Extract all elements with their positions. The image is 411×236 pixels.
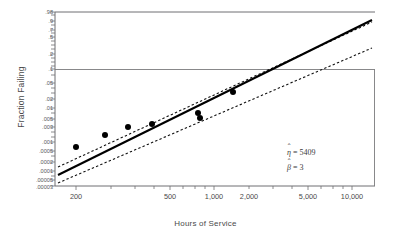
data-point [73,144,79,150]
confidence-bounds [58,22,372,183]
relation: = [293,148,298,157]
data-point [197,115,203,121]
x-tick-label: 500 [164,192,176,201]
relation: = [293,163,298,172]
hat-accent: ˆ [287,143,291,152]
x-tick-label: 5,000 [299,192,317,201]
annotation-eta-estimate: ηˆ = 5409 [287,148,315,157]
x-axis-title: Hours of Service [0,219,411,228]
hat-accent: ˆ [287,158,291,167]
chart-figure: .98 .9 .7 .5 .2 .1 .05 .02 .01 .005 .003… [0,0,411,236]
x-tick-label: 1,000 [205,192,223,201]
x-axis-ticks [76,186,352,190]
x-tick-label: 200 [70,192,82,201]
data-point [230,89,236,95]
data-point [125,124,131,130]
y-axis-ticks [50,12,55,186]
data-point [149,121,155,127]
beta-symbol: βˆ [287,163,291,172]
weibull-fit-line [58,20,372,175]
x-tick-label: 10,000 [341,192,363,201]
eta-symbol: ηˆ [287,148,291,157]
beta-value: 3 [300,163,304,172]
plot-frame [55,12,375,186]
annotation-beta-estimate: βˆ = 3 [287,163,304,172]
y-axis-title: Fraction Failing [16,42,26,152]
eta-value: 5409 [299,148,315,157]
x-tick-label: 2,000 [240,192,258,201]
data-point [102,132,108,138]
lower-confidence-bound [58,48,372,183]
